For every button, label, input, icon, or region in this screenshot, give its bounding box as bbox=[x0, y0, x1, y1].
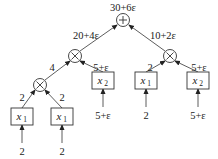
edge-label-bottom-left: 4 bbox=[49, 62, 55, 73]
input-value: 5+ε bbox=[95, 110, 111, 121]
input-value: 2 bbox=[59, 146, 64, 157]
right-mult-node bbox=[164, 50, 177, 63]
svg-text:x: x bbox=[140, 74, 146, 86]
input-value: 5+ε bbox=[190, 110, 206, 121]
svg-text:x: x bbox=[97, 74, 103, 86]
edge-label-x1a-bottom: 2 bbox=[19, 92, 24, 103]
svg-text:x: x bbox=[16, 110, 22, 122]
svg-text:x: x bbox=[56, 110, 62, 122]
edge-label-x2a-left: 5+ε bbox=[93, 62, 109, 73]
svg-text:x: x bbox=[192, 74, 198, 86]
input-value: 2 bbox=[19, 146, 24, 157]
left-mult-node bbox=[69, 50, 82, 63]
edge-label-x1c-right: 2 bbox=[147, 62, 152, 73]
svg-text:2: 2 bbox=[199, 79, 203, 88]
svg-text:2: 2 bbox=[104, 79, 108, 88]
edge-label-x1b-bottom: 2 bbox=[59, 92, 64, 103]
edge-label-left-root: 20+4ε bbox=[73, 30, 100, 41]
edge-label-x2b-right: 5+ε bbox=[191, 62, 207, 73]
svg-text:1: 1 bbox=[147, 79, 151, 88]
root-plus-node: 30+6ε bbox=[110, 2, 137, 27]
bottom-mult-node bbox=[34, 79, 47, 92]
svg-text:1: 1 bbox=[23, 115, 27, 124]
computation-graph: 30+6ε 20+4ε 10+2ε 4 5+ε 2 5+ε 2 2 x 1 2 … bbox=[0, 0, 218, 159]
edge-label-right-root: 10+2ε bbox=[150, 30, 177, 41]
svg-text:1: 1 bbox=[63, 115, 67, 124]
root-value: 30+6ε bbox=[110, 2, 137, 13]
input-value: 2 bbox=[143, 110, 148, 121]
